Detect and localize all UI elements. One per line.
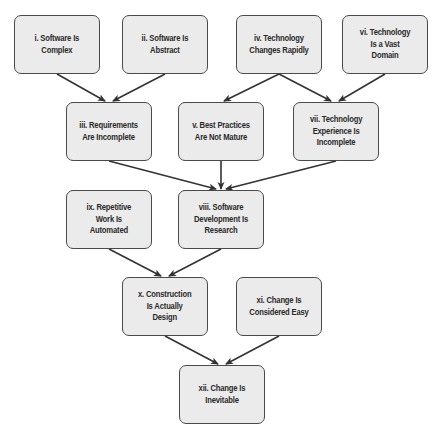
node-label: iv. Technology Changes Rapidly (249, 33, 308, 56)
node-label: xii. Change Is Inevitable (199, 383, 246, 406)
node-x: x. Construction Is Actually Design (122, 277, 208, 336)
node-vii: vii. Technology Experience Is Incomplete (293, 102, 379, 161)
node-xii: xii. Change Is Inevitable (179, 365, 265, 424)
node-iv: iv. Technology Changes Rapidly (236, 15, 322, 74)
node-v: v. Best Practices Are Not Mature (178, 102, 264, 161)
node-label: ix. Repetitive Work Is Automated (87, 202, 132, 237)
node-vi: vi. Technology Is a Vast Domain (342, 15, 428, 74)
node-label: v. Best Practices Are Not Mature (192, 120, 250, 143)
node-label: viii. Software Development Is Research (194, 202, 248, 237)
node-ix: ix. Repetitive Work Is Automated (66, 190, 152, 249)
node-label: vii. Technology Experience Is Incomplete (310, 114, 362, 149)
node-label: ii. Software Is Abstract (142, 33, 189, 56)
arrow-iii-to-viii (109, 161, 216, 189)
node-ii: ii. Software Is Abstract (122, 15, 208, 74)
node-xi: xi. Change Is Considered Easy (236, 277, 322, 336)
arrow-xi-to-xii (226, 336, 279, 364)
node-label: xi. Change Is Considered Easy (249, 295, 308, 318)
arrow-ix-to-x (109, 249, 161, 276)
dependency-diagram: i. Software Is Complex ii. Software Is A… (0, 0, 447, 438)
arrow-vii-to-viii (226, 161, 336, 189)
node-label: i. Software Is Complex (35, 33, 80, 56)
arrow-iv-to-v (224, 74, 279, 101)
node-i: i. Software Is Complex (14, 15, 100, 74)
arrow-viii-to-x (169, 249, 221, 276)
node-iii: iii. Requirements Are Incomplete (66, 102, 152, 161)
arrow-iv-to-vii (279, 74, 331, 101)
arrow-ii-to-iii (113, 74, 165, 101)
node-viii: viii. Software Development Is Research (178, 190, 264, 249)
node-label: iii. Requirements Are Incomplete (80, 120, 139, 143)
arrow-vi-to-vii (339, 74, 385, 101)
node-label: vi. Technology Is a Vast Domain (360, 27, 410, 62)
arrow-x-to-xii (165, 336, 218, 364)
arrow-i-to-iii (57, 74, 105, 101)
node-label: x. Construction Is Actually Design (138, 289, 191, 324)
